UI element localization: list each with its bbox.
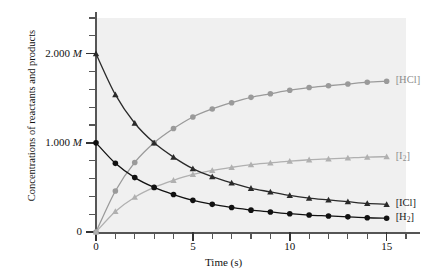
marker-circle — [364, 79, 370, 85]
marker-circle — [287, 87, 293, 93]
marker-circle — [209, 106, 215, 112]
marker-circle — [248, 207, 254, 213]
marker-circle — [268, 209, 274, 215]
marker-triangle — [112, 91, 118, 97]
series-layer — [0, 0, 442, 279]
series-line — [96, 54, 387, 205]
series-line — [96, 157, 387, 232]
marker-circle — [345, 81, 351, 87]
series-line — [96, 143, 387, 218]
series-icl — [93, 50, 390, 207]
x-axis-title: Time (s) — [205, 256, 242, 268]
marker-circle — [113, 161, 119, 167]
marker-circle — [171, 192, 177, 198]
marker-circle — [132, 160, 138, 166]
series-hcl — [93, 79, 389, 235]
marker-circle — [248, 95, 254, 101]
marker-circle — [113, 188, 119, 194]
marker-circle — [190, 114, 196, 120]
marker-circle — [151, 185, 157, 191]
marker-circle — [306, 212, 312, 218]
marker-circle — [190, 198, 196, 204]
marker-circle — [287, 211, 293, 217]
marker-circle — [384, 79, 390, 85]
marker-circle — [268, 91, 274, 97]
series-label-h2: [H2] — [396, 212, 414, 223]
series-label-hcl: [HCl] — [396, 75, 421, 86]
series-i2 — [93, 153, 390, 234]
marker-circle — [364, 215, 370, 221]
y-axis-title: Concentrations of reactants and products — [26, 21, 37, 211]
marker-circle — [209, 202, 215, 208]
marker-circle — [229, 205, 235, 211]
chart-figure: 01.000 M2.000 M051015 [HCl][I2][ICl][H2]… — [0, 0, 442, 279]
marker-circle — [306, 85, 312, 91]
series-label-icl: [ICl] — [396, 198, 416, 209]
marker-circle — [384, 215, 390, 221]
marker-circle — [326, 83, 332, 89]
marker-circle — [93, 140, 99, 146]
marker-triangle — [170, 154, 176, 160]
marker-triangle — [190, 165, 196, 171]
marker-circle — [326, 213, 332, 219]
marker-circle — [229, 100, 235, 106]
marker-triangle — [93, 50, 99, 56]
marker-triangle — [132, 194, 138, 200]
marker-circle — [132, 175, 138, 181]
series-h2 — [93, 140, 389, 221]
marker-circle — [171, 126, 177, 132]
marker-circle — [345, 214, 351, 220]
series-label-i2: [I2] — [396, 151, 410, 162]
